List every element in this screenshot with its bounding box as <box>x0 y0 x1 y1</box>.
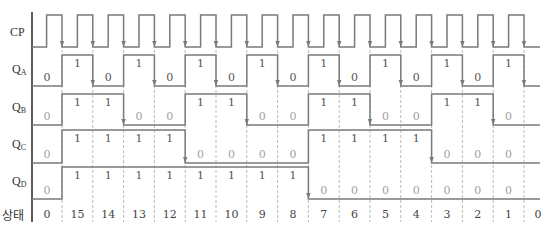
qb-bit-label: 1 <box>351 96 358 109</box>
qd-bit-label: 1 <box>105 169 112 182</box>
qa-bit-label: 0 <box>413 71 420 84</box>
cp-falling-arrow-icon <box>491 41 495 47</box>
qb-bit-label: 0 <box>136 110 143 123</box>
qb-bit-label: 0 <box>44 110 51 123</box>
label-qb: QB <box>12 100 26 115</box>
state-value: 2 <box>474 208 481 221</box>
state-value: 4 <box>413 208 420 221</box>
qc-bit-label: 0 <box>444 148 451 161</box>
qd-bit-label: 0 <box>320 184 327 197</box>
state-value: 1 <box>505 208 512 221</box>
qc-bit-label: 0 <box>290 148 297 161</box>
qc-bit-label: 1 <box>136 132 143 145</box>
qc-bit-label: 0 <box>44 148 51 161</box>
cp-falling-arrow-icon <box>183 41 187 47</box>
state-value: 10 <box>224 208 238 221</box>
qa-bit-label: 0 <box>166 71 173 84</box>
qc-bit-label: 1 <box>105 132 112 145</box>
qd-bit-label: 1 <box>228 169 235 182</box>
qa-bit-label: 1 <box>444 57 451 70</box>
qc-bit-label: 0 <box>197 148 204 161</box>
qb-bit-label: 1 <box>197 96 204 109</box>
state-value: 11 <box>194 208 208 221</box>
qd-bit-label: 1 <box>259 169 266 182</box>
qd-bit-label: 0 <box>444 184 451 197</box>
qb-bit-label: 1 <box>74 96 81 109</box>
qc-bit-label: 1 <box>413 132 420 145</box>
qb-bit-label: 0 <box>413 110 420 123</box>
qa-bit-label: 1 <box>320 57 327 70</box>
cp-falling-arrow-icon <box>368 41 372 47</box>
cp-falling-arrow-icon <box>429 41 433 47</box>
qd-bit-label: 0 <box>351 184 358 197</box>
qd-bit-label: 1 <box>136 169 143 182</box>
state-value: 9 <box>259 208 266 221</box>
label-qd: QD <box>12 174 26 189</box>
state-value: 13 <box>132 208 146 221</box>
cp-falling-arrow-icon <box>275 41 279 47</box>
cp-falling-arrow-icon <box>121 41 125 47</box>
qc-bit-label: 1 <box>351 132 358 145</box>
qc-bit-label: 0 <box>505 148 512 161</box>
qa-bit-label: 1 <box>259 57 266 70</box>
cp-falling-arrow-icon <box>306 41 310 47</box>
qa-bit-label: 0 <box>474 71 481 84</box>
qc-bit-label: 0 <box>474 148 481 161</box>
state-value: 3 <box>444 208 451 221</box>
qb-bit-label: 0 <box>382 110 389 123</box>
state-value: 12 <box>163 208 177 221</box>
qc-bit-label: 1 <box>320 132 327 145</box>
cp-falling-arrow-icon <box>152 41 156 47</box>
state-value: 5 <box>382 208 389 221</box>
cp-falling-arrow-icon <box>60 41 64 47</box>
cp-falling-arrow-icon <box>214 41 218 47</box>
qb-bit-label: 0 <box>166 110 173 123</box>
qb-bit-label: 1 <box>474 96 481 109</box>
qa-bit-label: 1 <box>505 57 512 70</box>
qa-bit-label: 0 <box>290 71 297 84</box>
qc-bit-label: 1 <box>166 132 173 145</box>
qd-bit-label: 1 <box>166 169 173 182</box>
state-value: 8 <box>290 208 297 221</box>
qb-bit-label: 0 <box>505 110 512 123</box>
qd-bit-label: 0 <box>44 184 51 197</box>
qa-bit-label: 0 <box>351 71 358 84</box>
qd-bit-label: 0 <box>413 184 420 197</box>
state-value: 6 <box>351 208 358 221</box>
state-value: 15 <box>70 208 84 221</box>
state-value: 7 <box>320 208 327 221</box>
qb-bit-label: 0 <box>259 110 266 123</box>
state-row-label: 상태 <box>2 206 24 223</box>
cp-falling-arrow-icon <box>245 41 249 47</box>
timing-diagram: 0101010101010101011001100110011001111000… <box>0 0 552 228</box>
cp-falling-arrow-icon <box>522 41 526 47</box>
qc-bit-label: 1 <box>382 132 389 145</box>
qa-bit-label: 0 <box>105 71 112 84</box>
qd-bit-label: 0 <box>382 184 389 197</box>
qa-bit-label: 0 <box>44 71 51 84</box>
qb-bit-label: 1 <box>320 96 327 109</box>
state-value: 0 <box>535 208 542 221</box>
qa-bit-label: 1 <box>136 57 143 70</box>
qa-bit-label: 1 <box>74 57 81 70</box>
cp-falling-arrow-icon <box>399 41 403 47</box>
label-qc: QC <box>12 137 26 152</box>
qd-bit-label: 0 <box>505 184 512 197</box>
state-value: 14 <box>101 208 115 221</box>
cp-falling-arrow-icon <box>337 41 341 47</box>
qc-bit-label: 0 <box>228 148 235 161</box>
qd-bit-label: 1 <box>290 169 297 182</box>
qd-bit-label: 1 <box>197 169 204 182</box>
cp-falling-arrow-icon <box>460 41 464 47</box>
qd-bit-label: 0 <box>474 184 481 197</box>
qb-bit-label: 1 <box>228 96 235 109</box>
label-qa: QA <box>12 62 26 77</box>
state-value: 0 <box>44 208 51 221</box>
cp-falling-arrow-icon <box>91 41 95 47</box>
qb-bit-label: 0 <box>290 110 297 123</box>
qa-bit-label: 1 <box>382 57 389 70</box>
qd-bit-label: 1 <box>74 169 81 182</box>
qa-bit-label: 0 <box>228 71 235 84</box>
qb-bit-label: 1 <box>105 96 112 109</box>
label-cp: CP <box>10 25 25 40</box>
